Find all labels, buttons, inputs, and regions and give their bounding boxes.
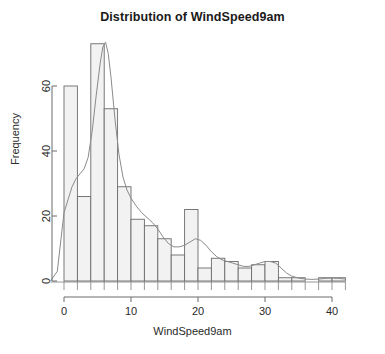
x-axis-tick-label: 20 [192,305,204,317]
x-axis-title: WindSpeed9am [0,325,385,337]
y-axis-tick-label: 0 [40,278,52,284]
histogram-bar [77,197,90,282]
histogram-plot-area: Distribution of WindSpeed9am 01020304002… [0,0,385,354]
histogram-bar [211,258,224,281]
x-axis-tick-label: 10 [125,305,137,317]
histogram-bar [144,226,157,281]
y-axis-tick-label: 20 [40,210,52,222]
histogram-bar [104,109,117,281]
histogram-bar [198,268,211,281]
x-axis: 010203040 [61,297,338,317]
histogram-bar [91,44,104,281]
histogram-bar [252,265,265,281]
histogram-bar [238,268,251,281]
y-axis: 0204060 [40,80,57,284]
histogram-bar [64,86,77,281]
histogram-bar [118,187,131,281]
y-axis-title: Frequency [9,89,21,189]
histogram-bar [278,278,291,281]
x-axis-tick-label: 40 [326,305,338,317]
histogram-bar [185,210,198,282]
y-axis-tick-label: 60 [40,80,52,92]
histogram-svg: 0102030400204060 [0,0,385,354]
x-axis-tick-label: 0 [61,305,67,317]
histogram-bar [131,219,144,281]
histogram-bar [171,255,184,281]
histogram-bars [64,44,345,281]
histogram-bar [158,239,171,281]
histogram-bar [265,262,278,282]
x-axis-tick-label: 30 [259,305,271,317]
rug-ticks [51,282,346,290]
y-axis-tick-label: 40 [40,145,52,157]
